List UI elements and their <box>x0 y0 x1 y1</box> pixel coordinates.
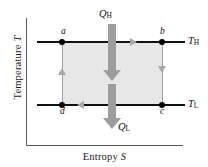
heat-flow-qh-subscript: H <box>107 11 112 20</box>
heat-flow-qh-arrowhead-icon <box>103 70 121 81</box>
direction-arrow-da-icon <box>58 68 66 75</box>
reservoir-hot-subscript: H <box>194 38 199 47</box>
heat-flow-qh-symbol: Q <box>99 8 107 19</box>
x-axis-line <box>26 145 183 146</box>
reservoir-hot-label: TH <box>188 35 199 47</box>
reservoir-cold-label: TL <box>188 98 198 110</box>
carnot-cycle-ts-diagram: a b c d TH TL QH QL Temperature T Entrop… <box>0 0 208 167</box>
y-axis-label-symbol: T <box>12 36 23 42</box>
state-point-d-label: d <box>60 106 65 116</box>
x-axis-label-text: Entropy <box>83 151 118 162</box>
y-axis-label-text: Temperature <box>12 44 23 99</box>
direction-arrow-bc-icon <box>158 66 166 73</box>
y-axis-label: Temperature T <box>12 13 23 123</box>
state-point-c-label: c <box>160 106 164 116</box>
state-point-a-label: a <box>61 26 66 36</box>
direction-arrow-cd-icon <box>77 101 84 109</box>
heat-flow-qh-arrow <box>108 24 116 81</box>
heat-flow-qh-label: QH <box>99 8 112 20</box>
heat-flow-ql-shaft <box>108 84 116 118</box>
direction-arrow-ab-icon <box>130 38 137 46</box>
state-point-b-label: b <box>160 26 165 36</box>
x-axis-label: Entropy S <box>26 151 183 162</box>
heat-flow-ql-label: QL <box>118 121 130 133</box>
y-axis-line <box>26 18 27 146</box>
heat-flow-ql-subscript: L <box>126 124 131 133</box>
heat-flow-qh-shaft <box>108 24 116 70</box>
heat-flow-ql-arrow <box>108 84 116 129</box>
state-point-b-dot <box>159 39 166 46</box>
heat-flow-ql-symbol: Q <box>118 121 126 132</box>
reservoir-cold-subscript: L <box>194 101 199 110</box>
x-axis-label-symbol: S <box>121 151 126 162</box>
adiabat-right-line <box>162 42 164 105</box>
